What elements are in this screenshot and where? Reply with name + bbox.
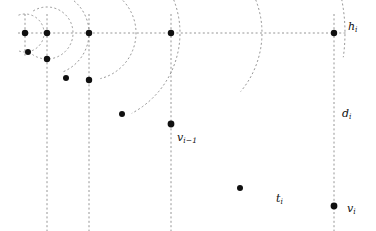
label-d-i: di bbox=[342, 107, 352, 121]
dashed-lines-layer bbox=[18, 14, 347, 231]
point-p-h-a bbox=[22, 30, 28, 36]
point-p-low-e bbox=[119, 111, 125, 117]
point-p-h-d bbox=[168, 30, 174, 36]
point-p-v-i bbox=[331, 203, 338, 210]
arc-5 bbox=[92, 0, 180, 113]
label-v-i: vi bbox=[347, 202, 356, 216]
points-layer bbox=[22, 30, 338, 210]
point-p-low-c bbox=[63, 75, 69, 81]
figure-canvas: hi di vi−1 ti vi bbox=[0, 0, 376, 231]
point-p-low-a bbox=[25, 49, 31, 55]
diagram-svg bbox=[0, 0, 376, 231]
arc-6 bbox=[174, 0, 262, 91]
point-p-low-d bbox=[86, 77, 92, 83]
label-v-i-minus-1: vi−1 bbox=[177, 131, 197, 145]
arc-4 bbox=[87, 0, 136, 79]
point-p-h-c bbox=[86, 30, 92, 36]
arcs-layer bbox=[19, 0, 346, 113]
point-p-h-b bbox=[44, 30, 50, 36]
point-p-h-e bbox=[331, 30, 337, 36]
label-h-i: hi bbox=[348, 20, 358, 34]
point-p-low-b bbox=[44, 56, 50, 62]
label-t-i: ti bbox=[276, 192, 283, 206]
point-p-v-prev bbox=[168, 121, 175, 128]
point-p-t-i bbox=[237, 185, 243, 191]
